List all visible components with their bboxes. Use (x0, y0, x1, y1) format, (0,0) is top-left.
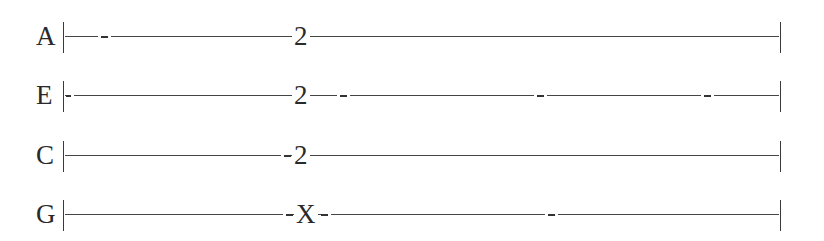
gap (347, 91, 350, 101)
string-row-c: C 2 (0, 137, 824, 177)
fret-number: 2 (292, 21, 310, 51)
end-barline (780, 141, 781, 172)
string-label: A (36, 21, 56, 51)
string-label: E (36, 80, 53, 110)
fret-number: 2 (292, 80, 310, 110)
fret-number: 2 (292, 140, 310, 170)
string-line (65, 95, 779, 96)
string-row-g: G X (0, 196, 824, 236)
gap (544, 91, 547, 101)
dash-mark (101, 36, 108, 38)
ukulele-tablature: A 2 E 2 C 2 G (0, 0, 824, 241)
dash-mark (340, 95, 347, 97)
muted-string-mark: X (294, 199, 318, 229)
string-label: G (36, 199, 56, 229)
string-label: C (36, 140, 54, 170)
gap (71, 91, 74, 101)
dash-mark (284, 155, 291, 157)
gap (555, 210, 558, 220)
start-barline (63, 141, 64, 172)
dash-mark (321, 214, 328, 216)
dash-mark (537, 95, 544, 97)
string-line (65, 155, 779, 156)
dash-mark (286, 214, 293, 216)
dash-mark (548, 214, 555, 216)
end-barline (780, 22, 781, 53)
string-line (65, 36, 779, 37)
string-line (65, 214, 779, 215)
start-barline (63, 81, 64, 112)
end-barline (780, 200, 781, 231)
gap (328, 210, 331, 220)
dash-mark (704, 95, 711, 97)
end-barline (780, 81, 781, 112)
start-barline (63, 22, 64, 53)
string-row-a: A 2 (0, 18, 824, 58)
gap (108, 32, 111, 42)
gap (711, 91, 714, 101)
start-barline (63, 200, 64, 231)
string-row-e: E 2 (0, 77, 824, 117)
